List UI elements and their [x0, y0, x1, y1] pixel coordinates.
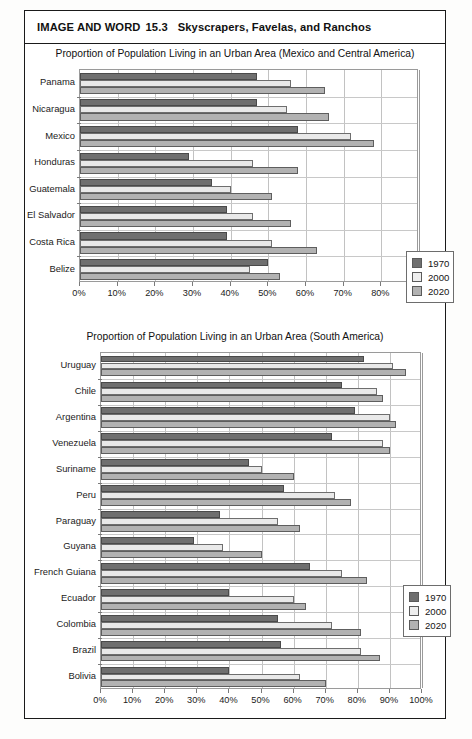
category-label: Colombia [25, 618, 96, 629]
row-separator [101, 405, 420, 406]
x-axis-tick [132, 689, 133, 693]
category-tick [98, 509, 102, 510]
bar-peru-2000 [101, 492, 335, 499]
bar-suriname-2000 [101, 466, 262, 473]
x-axis-tick [293, 689, 294, 693]
category-tick [98, 560, 102, 561]
category-tick [98, 457, 102, 458]
bar-argentina-2000 [101, 414, 390, 421]
x-axis-tick [100, 689, 101, 693]
bar-chile-2000 [101, 388, 377, 395]
bar-ecuador-2020 [101, 603, 306, 610]
category-label: Suriname [25, 463, 96, 474]
category-tick [98, 405, 102, 406]
category-tick [98, 586, 102, 587]
x-axis-tick-label: 100% [409, 695, 433, 705]
bar-guyana-2000 [101, 544, 223, 551]
row-separator [101, 664, 420, 665]
row-separator [101, 483, 420, 484]
x-axis-tick [261, 689, 262, 693]
bar-suriname-1970 [101, 459, 249, 466]
category-tick [98, 664, 102, 665]
bar-venezuela-2000 [101, 440, 383, 447]
category-tick [98, 431, 102, 432]
category-label: Argentina [25, 411, 96, 422]
x-axis-tick [357, 689, 358, 693]
category-label: Chile [25, 385, 96, 396]
bar-french-guiana-2000 [101, 570, 342, 577]
x-axis-tick-label: 60% [283, 695, 301, 705]
bar-ecuador-1970 [101, 589, 229, 596]
bar-colombia-2020 [101, 629, 361, 636]
category-label: Paraguay [25, 515, 96, 526]
gridline [422, 353, 423, 688]
bar-venezuela-2020 [101, 447, 390, 454]
x-axis-tick [325, 689, 326, 693]
row-separator [101, 534, 420, 535]
x-axis-tick-label: 10% [123, 695, 141, 705]
legend-label: 2020 [425, 620, 446, 631]
bar-bolivia-1970 [101, 667, 229, 674]
bar-guyana-2020 [101, 551, 262, 558]
row-separator [101, 379, 420, 380]
bar-suriname-2020 [101, 473, 294, 480]
category-label: Guyana [25, 540, 96, 551]
x-axis-tick-label: 90% [380, 695, 398, 705]
category-label: French Guiana [25, 566, 96, 577]
bar-paraguay-1970 [101, 511, 220, 518]
category-tick [98, 379, 102, 380]
row-separator [101, 586, 420, 587]
bar-paraguay-2000 [101, 518, 278, 525]
bar-paraguay-2020 [101, 525, 300, 532]
category-label: Uruguay [25, 359, 96, 370]
bar-argentina-2020 [101, 421, 396, 428]
bar-french-guiana-1970 [101, 563, 310, 570]
x-axis-tick [389, 689, 390, 693]
legend-item: 2000 [409, 604, 444, 618]
bar-uruguay-2000 [101, 363, 393, 370]
legend-label: 1970 [425, 592, 446, 603]
bar-chile-2020 [101, 395, 383, 402]
x-axis-tick-label: 40% [219, 695, 237, 705]
category-tick [98, 638, 102, 639]
x-axis-tick [228, 689, 229, 693]
x-axis-tick-label: 30% [187, 695, 205, 705]
bar-argentina-1970 [101, 407, 355, 414]
x-axis-tick [421, 689, 422, 693]
row-separator [101, 612, 420, 613]
bar-guyana-1970 [101, 537, 194, 544]
category-label: Peru [25, 489, 96, 500]
category-label: Venezuela [25, 437, 96, 448]
category-tick [98, 534, 102, 535]
bar-uruguay-2020 [101, 369, 406, 376]
bar-ecuador-2000 [101, 596, 294, 603]
x-axis-tick-label: 50% [251, 695, 269, 705]
bar-peru-1970 [101, 485, 284, 492]
plot-area [100, 352, 421, 689]
category-tick [98, 483, 102, 484]
legend-swatch-2020 [409, 620, 419, 630]
x-axis-tick-label: 0% [93, 695, 106, 705]
legend-swatch-2000 [409, 606, 419, 616]
bar-colombia-2000 [101, 622, 332, 629]
chart-south-america: Proportion of Population Living in an Ur… [25, 11, 445, 718]
x-axis-tick-label: 80% [348, 695, 366, 705]
bar-colombia-1970 [101, 615, 278, 622]
bar-brazil-1970 [101, 641, 281, 648]
bar-bolivia-2000 [101, 674, 300, 681]
category-label: Ecuador [25, 592, 96, 603]
x-axis-tick-label: 20% [155, 695, 173, 705]
bar-chile-1970 [101, 382, 342, 389]
category-label: Brazil [25, 644, 96, 655]
row-separator [101, 638, 420, 639]
row-separator [101, 457, 420, 458]
textbook-page: IMAGE AND WORD15.3Skyscrapers, Favelas, … [0, 0, 472, 739]
figure-frame: IMAGE AND WORD15.3Skyscrapers, Favelas, … [24, 10, 446, 719]
legend-label: 2000 [425, 606, 446, 617]
bar-venezuela-1970 [101, 433, 332, 440]
chart-title: Proportion of Population Living in an Ur… [25, 331, 445, 342]
chart-legend: 197020002020 [403, 585, 451, 637]
bar-uruguay-1970 [101, 356, 364, 363]
category-label: Bolivia [25, 670, 96, 681]
x-axis-tick [196, 689, 197, 693]
